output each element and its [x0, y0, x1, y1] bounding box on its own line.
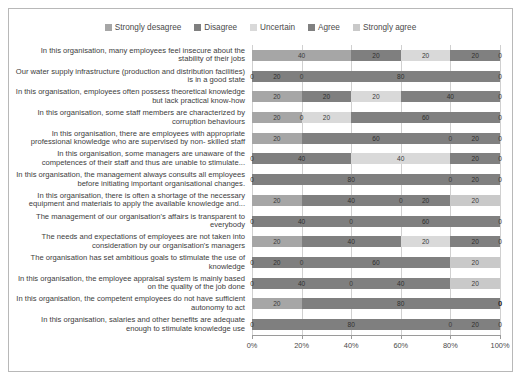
bar-segment: 40: [351, 153, 450, 164]
bar-segment: 20: [450, 278, 500, 289]
bar-value-label: 40: [298, 155, 305, 162]
bar-row[interactable]: 402020200: [252, 45, 500, 66]
bar-segment: 20: [252, 298, 302, 309]
bar-value-label: 20: [422, 238, 429, 245]
bar-value-label: 0: [250, 280, 254, 287]
bar-value-label: 0: [250, 321, 254, 328]
bar-value-label: 80: [397, 300, 404, 307]
legend-item[interactable]: Disagree: [194, 23, 237, 32]
bar-value-label: 40: [298, 280, 305, 287]
bar-track: 0200800: [252, 71, 500, 82]
category-label: Our water supply infrastructure (product…: [15, 66, 248, 87]
bar-segment: 20: [450, 257, 500, 268]
bar-track: 02006020: [252, 257, 500, 268]
bar-segment: 20: [401, 236, 451, 247]
bar-row[interactable]: 0200800: [252, 66, 500, 87]
bar-segment: 20: [302, 112, 352, 123]
x-tick-mark: [351, 335, 352, 339]
bar-value-label: 20: [323, 114, 330, 121]
bar-row[interactable]: 2080000: [252, 294, 500, 315]
bar-segment: 40: [252, 50, 351, 61]
bar-value-label: 20: [472, 259, 479, 266]
chart-container: Strongly desagreeDisagreeUncertainAgreeS…: [8, 8, 513, 372]
legend-item[interactable]: Uncertain: [250, 23, 295, 32]
bar-track: 04040200: [252, 153, 500, 164]
bar-value-label: 40: [397, 155, 404, 162]
bar-row[interactable]: 04040200: [252, 149, 500, 170]
category-label: In this organisation, some managers are …: [15, 149, 248, 170]
bar-segment: 20: [450, 133, 500, 144]
bar-value-label: 40: [298, 218, 305, 225]
bar-value-label: 0: [498, 321, 502, 328]
bar-value-label: 20: [472, 155, 479, 162]
bar-value-label: 0: [349, 280, 353, 287]
legend-item[interactable]: Strongly agree: [353, 23, 416, 32]
bar-segment: 20: [450, 195, 500, 206]
bars-region: 4020202000200800202020400200206002060020…: [252, 45, 500, 335]
bar-row[interactable]: 204002020: [252, 190, 500, 211]
bar-value-label: 40: [348, 238, 355, 245]
bar-value-label: 20: [273, 135, 280, 142]
bar-row[interactable]: 0800200: [252, 169, 500, 190]
bar-value-label: 20: [472, 135, 479, 142]
bar-segment: 20: [252, 257, 302, 268]
bar-value-label: 20: [273, 114, 280, 121]
bar-row[interactable]: 04004020: [252, 273, 500, 294]
bar-value-label: 40: [397, 280, 404, 287]
bar-segment: 40: [401, 91, 500, 102]
bar-segment: 20: [252, 71, 302, 82]
bar-segment: 20: [351, 50, 401, 61]
bar-track: 202020400: [252, 91, 500, 102]
bar-track: 04004020: [252, 278, 500, 289]
bar-row[interactable]: 204020200: [252, 231, 500, 252]
bar-value-label: 80: [348, 176, 355, 183]
x-tick-label: 80%: [443, 341, 458, 350]
x-tick-mark: [252, 335, 253, 339]
bar-segment: 60: [351, 216, 500, 227]
bar-value-label: 0: [300, 259, 304, 266]
bar-row[interactable]: 20600200: [252, 128, 500, 149]
bar-value-label: 60: [422, 218, 429, 225]
x-axis-tick-labels: 0%20%40%60%80%100%: [252, 341, 500, 355]
bar-value-label: 0: [498, 176, 502, 183]
legend-swatch-icon: [308, 24, 315, 31]
bar-segment: 60: [302, 257, 451, 268]
bar-value-label: 0: [498, 93, 502, 100]
x-tick-mark: [450, 335, 451, 339]
bar-track: 204002020: [252, 195, 500, 206]
bar-row[interactable]: 0800200: [252, 314, 500, 335]
bar-segment: 20: [351, 91, 401, 102]
bar-value-label: 20: [422, 197, 429, 204]
bar-value-label: 20: [273, 259, 280, 266]
bar-value-label: 0: [498, 114, 502, 121]
bar-track: 0800200: [252, 174, 500, 185]
bar-value-label: 0: [300, 73, 304, 80]
bar-segment: 40: [252, 278, 351, 289]
bar-segment: 40: [252, 216, 351, 227]
bar-value-label: 20: [273, 197, 280, 204]
bar-row[interactable]: 202020400: [252, 86, 500, 107]
bar-value-label: 0: [250, 73, 254, 80]
bar-segment: 20: [252, 91, 302, 102]
bar-track: 0800200: [252, 319, 500, 330]
bar-track: 20020600: [252, 112, 500, 123]
category-label: The management of our organisation's aff…: [15, 211, 248, 232]
legend-item[interactable]: Strongly desagree: [105, 23, 181, 32]
bar-segment: 40: [302, 195, 401, 206]
bar-value-label: 0: [349, 218, 353, 225]
bar-segment: 20: [450, 236, 500, 247]
bar-value-label: 0: [399, 197, 403, 204]
legend-item[interactable]: Agree: [308, 23, 340, 32]
bar-row[interactable]: 20020600: [252, 107, 500, 128]
bar-row[interactable]: 0400600: [252, 211, 500, 232]
bar-segment: 80: [302, 71, 500, 82]
legend-swatch-icon: [353, 24, 360, 31]
bar-value-label: 0: [250, 218, 254, 225]
bar-value-label: 20: [273, 300, 280, 307]
bar-value-label: 20: [422, 52, 429, 59]
bar-row[interactable]: 02006020: [252, 252, 500, 273]
legend-swatch-icon: [250, 24, 257, 31]
chart-legend: Strongly desagreeDisagreeUncertainAgreeS…: [9, 23, 512, 32]
bar-value-label: 0: [449, 321, 453, 328]
bar-value-label: 0: [250, 155, 254, 162]
